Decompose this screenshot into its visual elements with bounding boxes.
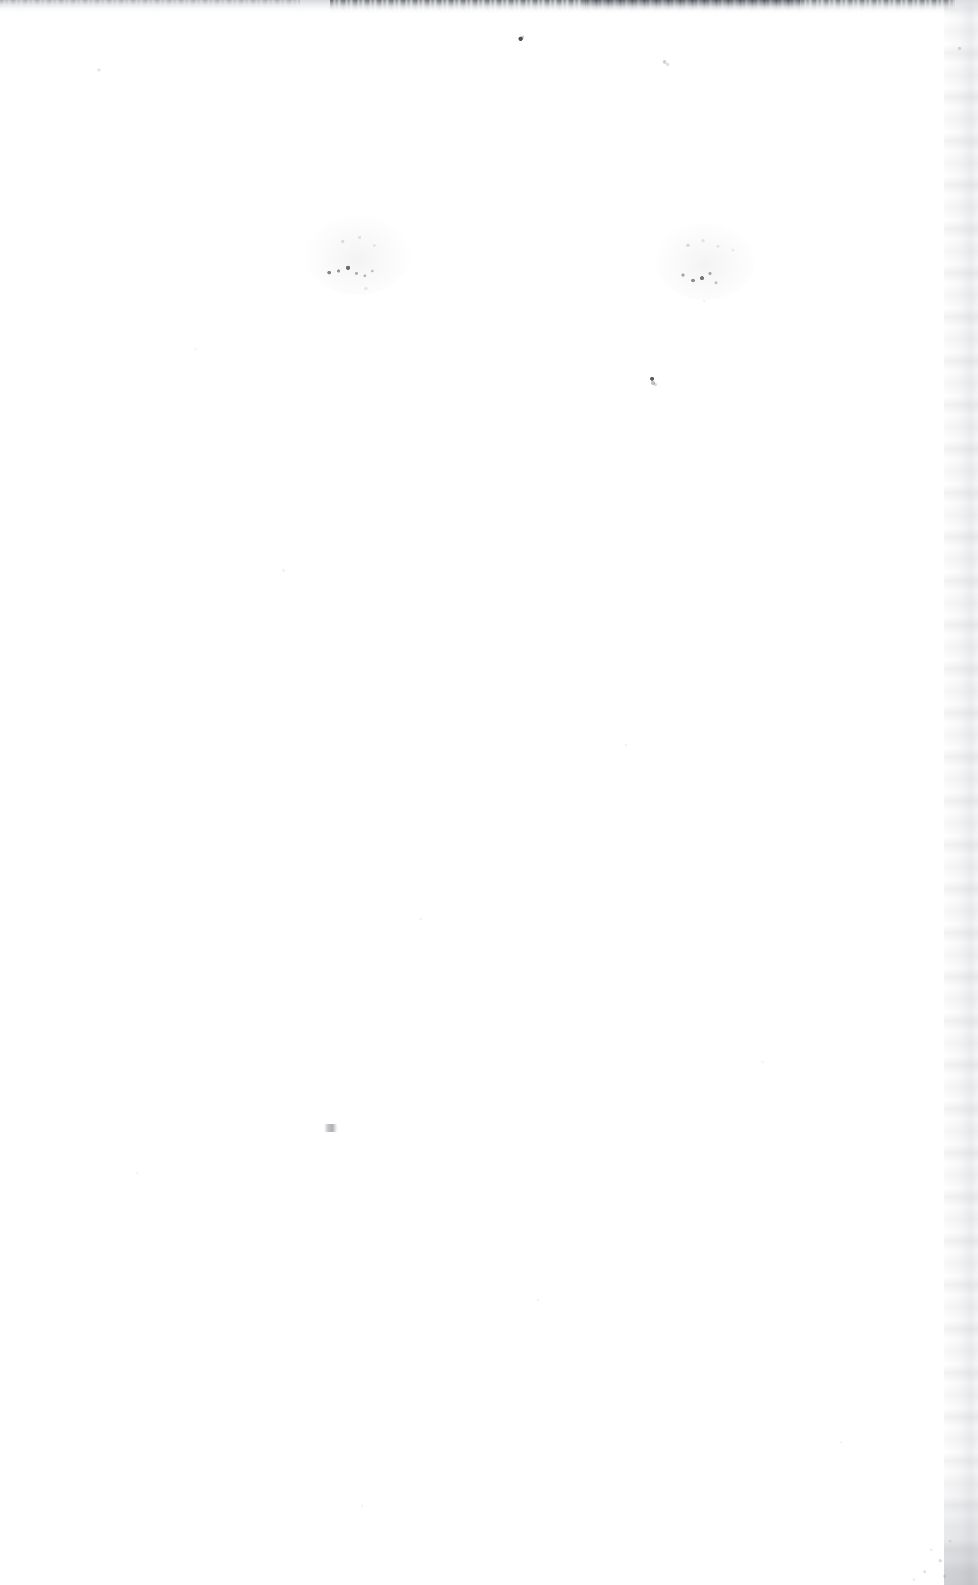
top-scan-edge-artifact xyxy=(0,0,978,16)
top-edge-dark-segment-left xyxy=(0,0,300,8)
dust-speckle-field xyxy=(0,0,978,1585)
scanned-page: Blank scanned page, no printed text or f… xyxy=(0,0,978,1585)
bottom-right-dust-cloud xyxy=(850,1475,960,1585)
top-edge-dark-segment-right xyxy=(585,0,955,11)
right-band-mottle xyxy=(944,0,978,1585)
right-margin-band xyxy=(944,0,978,1585)
